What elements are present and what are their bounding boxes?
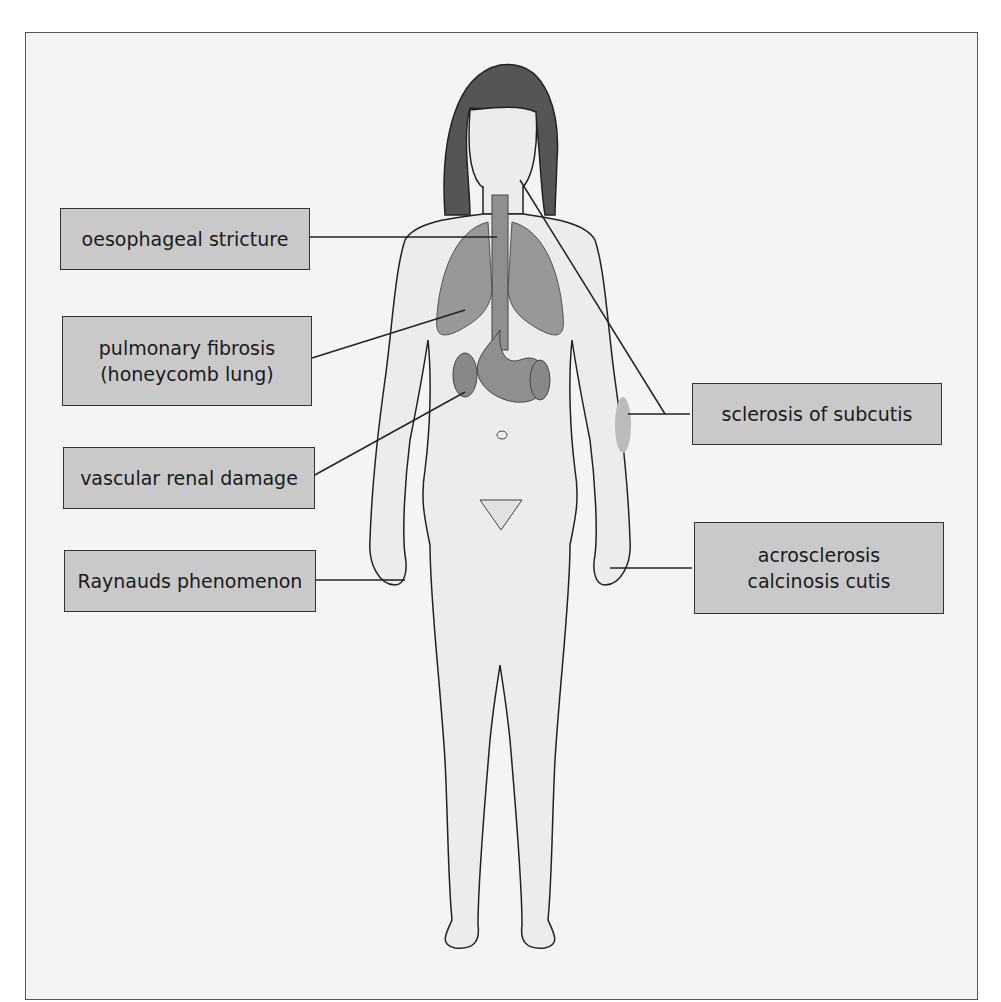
label-pulmonary-fibrosis: pulmonary fibrosis (honeycomb lung)	[62, 316, 312, 406]
label-vascular-renal-damage: vascular renal damage	[63, 447, 315, 509]
head-shape	[469, 107, 537, 194]
sclerosis-patch-shape	[615, 397, 631, 453]
oesophagus-shape	[492, 195, 508, 350]
kidney-right-shape	[453, 353, 477, 397]
label-text: (honeycomb lung)	[100, 361, 274, 387]
label-text: calcinosis cutis	[748, 568, 891, 594]
kidney-left-shape	[530, 360, 550, 400]
label-oesophageal-stricture: oesophageal stricture	[60, 208, 310, 270]
label-acrosclerosis-calcinosis: acrosclerosis calcinosis cutis	[694, 522, 944, 614]
label-sclerosis-of-subcutis: sclerosis of subcutis	[692, 383, 942, 445]
label-text: sclerosis of subcutis	[722, 401, 913, 427]
label-text: vascular renal damage	[80, 465, 298, 491]
label-text: oesophageal stricture	[82, 226, 289, 252]
label-raynauds-phenomenon: Raynauds phenomenon	[64, 550, 316, 612]
label-text: acrosclerosis	[758, 542, 881, 568]
label-text: Raynauds phenomenon	[78, 568, 303, 594]
label-text: pulmonary fibrosis	[99, 335, 275, 361]
